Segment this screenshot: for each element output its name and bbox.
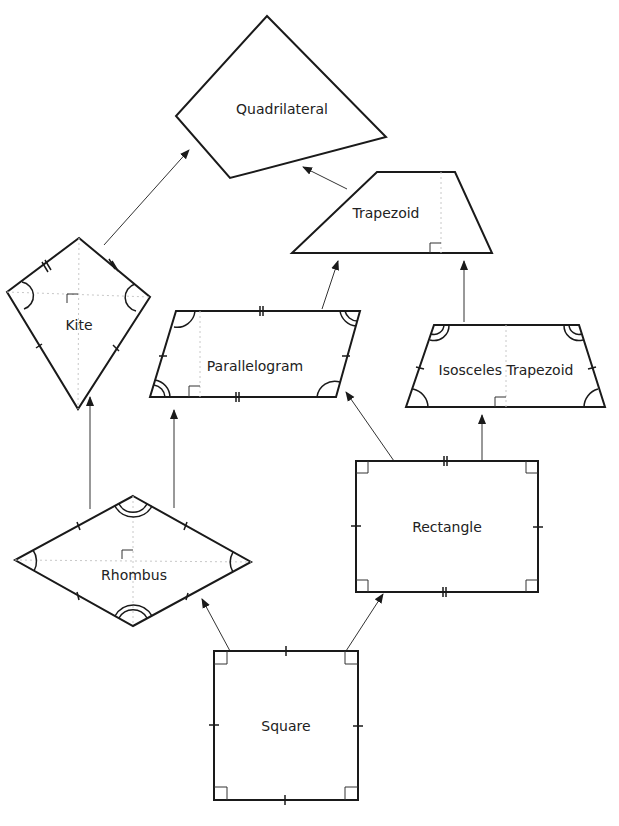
edge-square-to-rectangle xyxy=(346,594,383,651)
square-label: Square xyxy=(261,718,310,734)
rhombus-label: Rhombus xyxy=(101,567,167,583)
node-parallelogram: Parallelogram xyxy=(150,306,360,402)
node-trapezoid: Trapezoid xyxy=(292,172,492,253)
node-quadrilateral: Quadrilateral xyxy=(176,16,386,178)
quadrilateral-hierarchy-diagram: Quadrilateral Trapezoid Kite xyxy=(0,0,619,826)
edge-rectangle-to-parallelogram xyxy=(346,392,394,461)
edge-trapezoid-to-quadrilateral xyxy=(303,167,347,189)
node-square: Square xyxy=(209,646,363,805)
edge-kite-to-quadrilateral xyxy=(104,150,189,245)
parallelogram-label: Parallelogram xyxy=(207,358,303,374)
quadrilateral-label: Quadrilateral xyxy=(236,101,328,117)
edge-square-to-rhombus xyxy=(202,599,230,651)
kite-label: Kite xyxy=(65,317,92,333)
node-kite: Kite xyxy=(7,238,150,409)
edge-parallelogram-to-trapezoid xyxy=(322,261,338,309)
node-rhombus: Rhombus xyxy=(15,496,251,626)
node-isosceles-trapezoid: Isosceles Trapezoid xyxy=(406,325,605,407)
rectangle-label: Rectangle xyxy=(412,519,482,535)
node-rectangle: Rectangle xyxy=(351,456,543,597)
isosceles-trapezoid-label: Isosceles Trapezoid xyxy=(439,362,574,378)
trapezoid-label: Trapezoid xyxy=(351,205,419,221)
